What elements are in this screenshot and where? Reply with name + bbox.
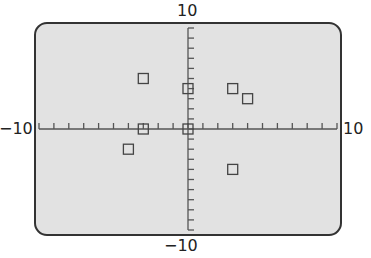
calculator-screen-plot	[0, 0, 371, 258]
y-min-label: −10	[164, 238, 198, 254]
y-max-label: 10	[177, 3, 197, 19]
x-max-label: 10	[343, 121, 363, 137]
x-min-label: −10	[0, 121, 33, 137]
